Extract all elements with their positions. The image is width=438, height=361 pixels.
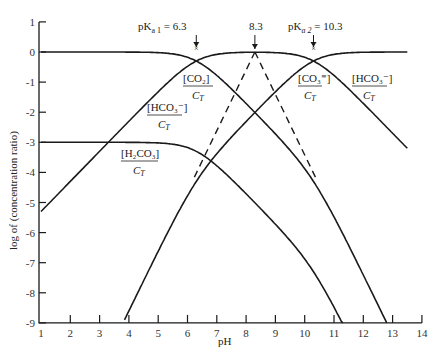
cross-marker-icon: ×: [311, 44, 316, 53]
x-tick-label: 13: [387, 327, 399, 339]
speciation-chart: 10-1-2-3-4-5-6-7-8-91234567891011121314 …: [0, 0, 438, 361]
y-tick-label: 1: [30, 16, 36, 28]
x-tick-label: 1: [38, 327, 44, 339]
svg-text:[HCO₃⁻]: [HCO₃⁻]: [147, 101, 187, 113]
h2co3-fraction-label: [H₂CO₃] CT: [121, 147, 159, 178]
co2-curve: [41, 52, 387, 323]
y-tick-label: -4: [26, 166, 36, 178]
y-tick-label: -7: [26, 257, 36, 269]
y-tick-label: -5: [26, 197, 36, 209]
svg-text:CT: CT: [304, 89, 316, 103]
pka2-annotation: pKa 2 = 10.3: [288, 20, 343, 35]
x-tick-label: 2: [68, 327, 74, 339]
svg-text:[HCO₃⁻]: [HCO₃⁻]: [352, 72, 392, 84]
x-tick-label: 6: [185, 327, 191, 339]
cross-marker-icon: ×: [194, 44, 199, 53]
svg-text:[H₂CO₃]: [H₂CO₃]: [121, 147, 159, 159]
x-tick-label: 14: [416, 327, 428, 339]
svg-text:CT: CT: [363, 89, 375, 103]
x-tick-label: 5: [155, 327, 161, 339]
svg-text:[CO₃⁼]: [CO₃⁼]: [298, 72, 330, 84]
y-tick-label: -9: [26, 317, 36, 329]
hco3-left-fraction-label: [HCO₃⁻] CT: [147, 101, 187, 132]
x-tick-label: 8: [243, 327, 249, 339]
y-tick-label: -6: [26, 227, 36, 239]
y-tick-label: -3: [26, 136, 36, 148]
x-tick-label: 3: [97, 327, 103, 339]
y-tick-label: -1: [26, 76, 35, 88]
co2-fraction-label: [CO₂] CT: [183, 72, 213, 103]
svg-text:CT: CT: [158, 118, 170, 132]
ph83-annotation: 8.3: [249, 20, 263, 32]
y-tick-label: 0: [30, 46, 36, 58]
x-tick-label: 10: [299, 327, 311, 339]
pka1-annotation: pKa 1 = 6.3: [138, 20, 187, 35]
x-tick-label: 9: [273, 327, 279, 339]
svg-text:CT: CT: [133, 164, 145, 178]
x-tick-label: 12: [358, 327, 369, 339]
y-axis-label: log of (concentration ratio): [7, 131, 20, 250]
h2co3-curve: [41, 142, 343, 323]
y-tick-label: -2: [26, 106, 35, 118]
co3-fraction-label: [CO₃⁼] CT: [298, 72, 330, 103]
x-tick-label: 4: [126, 327, 132, 339]
y-tick-label: -8: [26, 287, 36, 299]
x-tick-label: 11: [329, 327, 340, 339]
svg-text:[CO₂]: [CO₂]: [183, 72, 209, 84]
svg-text:CT: CT: [192, 89, 204, 103]
x-axis-label: pH: [218, 335, 232, 347]
axes: 10-1-2-3-4-5-6-7-8-91234567891011121314: [26, 16, 428, 339]
